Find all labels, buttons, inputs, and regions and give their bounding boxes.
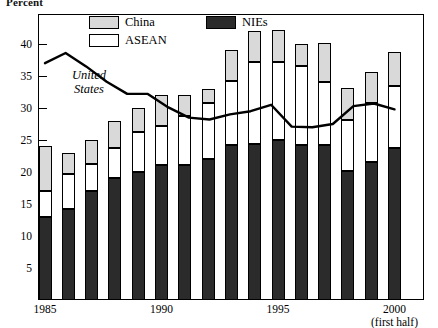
- bar-segment-nies: [248, 144, 261, 300]
- bar-column: [39, 14, 52, 300]
- x-axis-tick-label: 1990: [150, 303, 173, 315]
- legend-item-nies: NIEs: [206, 14, 268, 31]
- x-axis-tick-label: 1985: [34, 303, 57, 315]
- legend-swatch-nies-icon: [206, 16, 236, 29]
- legend-swatch-asean-icon: [89, 34, 119, 47]
- bar-segment-asean: [39, 191, 52, 217]
- bar-column: [108, 14, 121, 300]
- x-axis-tick-label: 1995: [267, 303, 290, 315]
- bar-segment-china: [272, 30, 285, 62]
- y-axis-tick-label: 10: [6, 230, 32, 242]
- bar-segment-nies: [388, 148, 401, 300]
- bar-segment-asean: [132, 132, 145, 172]
- legend: China ASEAN NIEs: [89, 14, 167, 50]
- bar-segment-china: [39, 146, 52, 190]
- bar-segment-china: [108, 121, 121, 148]
- legend-label-nies: NIEs: [242, 16, 268, 29]
- bar-segment-asean: [62, 174, 75, 209]
- legend-item-asean: ASEAN: [89, 32, 167, 49]
- chart-title: Percent: [6, 0, 43, 8]
- bar-column: [388, 14, 401, 300]
- bar-column: [295, 14, 308, 300]
- bar-segment-china: [388, 52, 401, 86]
- legend-swatch-china-icon: [89, 16, 119, 29]
- bar-segment-china: [155, 95, 168, 126]
- bar-segment-nies: [202, 159, 215, 300]
- annot-line-1: United: [58, 68, 120, 82]
- bar-segment-asean: [85, 164, 98, 191]
- bar-column: [202, 14, 215, 300]
- bar-column: [318, 14, 331, 300]
- bar-column: [225, 14, 238, 300]
- y-axis-tick-label: 15: [6, 198, 32, 210]
- bar-segment-asean: [272, 62, 285, 140]
- bar-column: [365, 14, 378, 300]
- bar-column: [341, 14, 354, 300]
- bar-segment-nies: [132, 172, 145, 300]
- y-axis-tick-label: 5: [6, 262, 32, 274]
- bar-segment-china: [132, 108, 145, 132]
- legend-item-china: China: [89, 14, 167, 31]
- legend-label-asean: ASEAN: [125, 34, 167, 47]
- bar-segment-china: [202, 89, 215, 103]
- bar-segment-china: [341, 88, 354, 120]
- y-axis-tick-label: 40: [6, 38, 32, 50]
- bar-segment-china: [318, 43, 331, 81]
- bar-column: [155, 14, 168, 300]
- bar-segment-nies: [318, 145, 331, 300]
- united-states-line-label: United States: [58, 68, 120, 96]
- bar-segment-asean: [388, 86, 401, 147]
- bar-segment-china: [365, 72, 378, 103]
- bar-segment-nies: [39, 217, 52, 300]
- bar-column: [178, 14, 191, 300]
- bar-segment-nies: [272, 140, 285, 300]
- bar-segment-asean: [108, 148, 121, 179]
- x-axis-sublabel: (first half): [371, 316, 418, 328]
- bar-segment-asean: [202, 103, 215, 159]
- bar-segment-asean: [248, 62, 261, 145]
- bar-segment-nies: [225, 145, 238, 300]
- bar-segment-china: [248, 31, 261, 62]
- bar-segment-china: [85, 140, 98, 164]
- bar-segment-china: [225, 50, 238, 81]
- bar-segment-nies: [62, 209, 75, 300]
- bar-column: [85, 14, 98, 300]
- bar-segment-nies: [108, 178, 121, 300]
- y-axis-tick-label: 25: [6, 134, 32, 146]
- bar-column: [272, 14, 285, 300]
- bar-column: [62, 14, 75, 300]
- bar-segment-asean: [341, 120, 354, 171]
- annot-line-2: States: [58, 82, 120, 96]
- bar-segment-asean: [365, 103, 378, 162]
- bar-segment-nies: [85, 191, 98, 300]
- bar-segment-china: [295, 44, 308, 66]
- legend-label-china: China: [125, 16, 155, 29]
- bar-column: [248, 14, 261, 300]
- x-axis-tick-label: 2000: [383, 303, 406, 315]
- y-axis-tick-label: 20: [6, 166, 32, 178]
- legend-column-2: NIEs: [206, 14, 268, 32]
- bar-segment-asean: [155, 126, 168, 165]
- bar-segment-nies: [178, 165, 191, 300]
- y-axis-tick-label: 35: [6, 70, 32, 82]
- bar-segment-asean: [295, 66, 308, 145]
- bar-column: [132, 14, 145, 300]
- bar-segment-nies: [155, 165, 168, 300]
- bar-segment-asean: [225, 81, 238, 145]
- bar-segment-china: [178, 95, 191, 116]
- bar-segment-china: [62, 153, 75, 174]
- bar-segment-nies: [365, 162, 378, 300]
- bar-segment-asean: [318, 82, 331, 145]
- bar-segment-nies: [295, 145, 308, 300]
- bar-segment-asean: [178, 116, 191, 165]
- bar-segment-nies: [341, 171, 354, 300]
- y-axis-tick-label: 30: [6, 102, 32, 114]
